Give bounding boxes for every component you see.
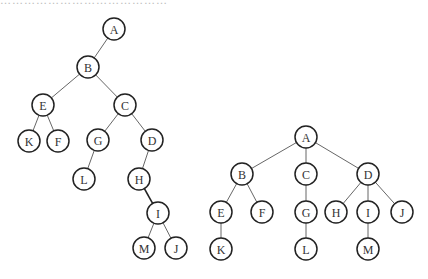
node-label: A	[302, 131, 311, 145]
edge-a-d	[315, 143, 358, 169]
node-label: A	[110, 23, 119, 37]
node-m: M	[357, 238, 379, 260]
node-a: A	[295, 126, 317, 148]
node-label: K	[217, 243, 226, 257]
node-l: L	[73, 168, 95, 190]
node-j: J	[165, 237, 187, 259]
node-label: B	[238, 168, 246, 182]
edge-d-j	[375, 182, 394, 204]
edge-i-m	[148, 223, 154, 238]
edge-h-i	[144, 189, 152, 204]
node-label: L	[80, 173, 87, 187]
node-label: B	[84, 61, 92, 75]
binary-tree: ABECKFGDLHIMJ	[18, 18, 187, 259]
node-f: F	[251, 201, 273, 223]
edge-b-e	[226, 184, 236, 203]
node-h: H	[325, 201, 347, 223]
node-label: C	[302, 168, 310, 182]
node-label: D	[364, 168, 373, 182]
node-label: H	[135, 173, 144, 187]
node-label: E	[217, 206, 224, 220]
node-label: D	[148, 134, 157, 148]
edge-e-f	[47, 115, 54, 131]
edge-b-f	[247, 184, 257, 203]
node-label: H	[332, 206, 341, 220]
edge-i-j	[163, 223, 171, 238]
edge-c-d	[132, 114, 146, 132]
node-d: D	[141, 129, 163, 151]
node-label: C	[121, 99, 129, 113]
node-k: K	[210, 238, 232, 260]
node-label: G	[94, 134, 103, 148]
edge-d-h	[142, 150, 148, 168]
node-label: K	[25, 135, 34, 149]
edge-g-l	[88, 150, 95, 168]
edge-b-c	[96, 75, 118, 97]
node-label: F	[55, 135, 62, 149]
node-label: E	[39, 99, 46, 113]
node-a: A	[103, 18, 125, 40]
node-label: J	[174, 242, 179, 256]
node-b: B	[77, 56, 99, 78]
edge-d-h	[343, 182, 361, 203]
node-f: F	[47, 130, 69, 152]
node-d: D	[357, 163, 379, 185]
node-h: H	[128, 168, 150, 190]
node-label: M	[363, 243, 374, 257]
node-e: E	[32, 94, 54, 116]
edge-a-b	[94, 38, 108, 58]
tree-diagram: ABECKFGDLHIMJ ABCDEFGHIJKLM	[0, 0, 428, 279]
node-c: C	[114, 94, 136, 116]
node-label: I	[366, 206, 370, 220]
node-label: M	[139, 242, 150, 256]
node-m: M	[133, 237, 155, 259]
node-j: J	[391, 201, 413, 223]
node-c: C	[295, 163, 317, 185]
edge-c-g	[105, 114, 119, 132]
node-i: I	[357, 201, 379, 223]
node-g: G	[87, 129, 109, 151]
node-g: G	[295, 201, 317, 223]
general-tree: ABCDEFGHIJKLM	[210, 126, 413, 260]
node-b: B	[231, 163, 253, 185]
node-label: J	[400, 206, 405, 220]
node-label: I	[156, 207, 160, 221]
edge-e-k	[33, 115, 39, 130]
node-k: K	[18, 130, 40, 152]
node-l: L	[295, 238, 317, 260]
node-label: F	[259, 206, 266, 220]
edge-b-e	[51, 74, 79, 98]
node-i: I	[147, 202, 169, 224]
node-label: L	[302, 243, 309, 257]
edge-a-b	[252, 143, 297, 169]
node-e: E	[210, 201, 232, 223]
node-label: G	[302, 206, 311, 220]
